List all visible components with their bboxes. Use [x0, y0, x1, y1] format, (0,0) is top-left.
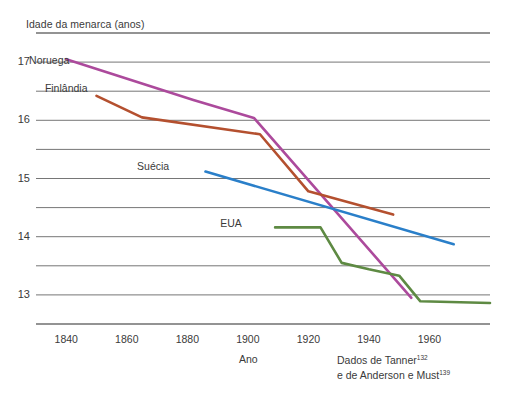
gridlines [36, 33, 490, 324]
x-axis-tick-1880: 1880 [164, 334, 210, 345]
x-axis-tick-1840: 1840 [43, 334, 89, 345]
source-note-line2: e de Anderson e Must [337, 369, 439, 381]
x-axis-tick-1940: 1940 [346, 334, 392, 345]
y-axis-tick-14: 14 [8, 231, 30, 242]
x-axis-tick-1860: 1860 [104, 334, 150, 345]
series-label-sucia: Suécia [137, 161, 174, 172]
source-note-ref2: 139 [439, 369, 450, 376]
y-axis-tick-17: 17 [8, 56, 30, 67]
series-label-eua: EUA [220, 218, 247, 229]
y-axis-tick-13: 13 [8, 289, 30, 300]
series-label-finlndia: Finlândia [45, 83, 93, 94]
source-note-ref1: 132 [417, 354, 428, 361]
x-axis-tick-1920: 1920 [285, 334, 331, 345]
source-note: Dados de Tanner132 e de Anderson e Must1… [337, 353, 450, 383]
x-axis-tick-1900: 1900 [225, 334, 271, 345]
series-line-finlndia [97, 96, 394, 215]
x-axis-tick-1960: 1960 [406, 334, 452, 345]
series-label-noruega: Noruega [29, 55, 74, 66]
y-axis-tick-16: 16 [8, 114, 30, 125]
series-lines [66, 59, 490, 303]
source-note-line1: Dados de Tanner [337, 354, 417, 366]
y-axis-tick-15: 15 [8, 173, 30, 184]
x-axis-title: Ano [239, 354, 258, 365]
menarche-age-line-chart: Idade da menarca (anos) 1716151413 18401… [0, 0, 515, 399]
